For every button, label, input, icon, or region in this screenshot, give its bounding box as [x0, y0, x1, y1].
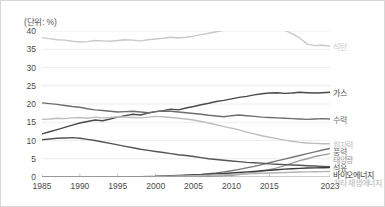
x-axis-tick-label: 2010	[211, 181, 251, 191]
y-axis-tick-label: 35	[10, 44, 36, 54]
y-axis-tick-label: 20	[10, 99, 36, 109]
x-axis-tick-label: 2005	[174, 181, 214, 191]
series-label-석탄: 석탄	[333, 40, 346, 51]
y-axis-tick-label: 25	[10, 81, 36, 91]
series-line-석탄	[42, 31, 330, 46]
x-axis-tick-label: 2000	[136, 181, 176, 191]
y-axis-tick-label: 10	[10, 136, 36, 146]
x-axis-tick-label: 1985	[22, 181, 62, 191]
x-axis-tick-label: 1990	[60, 181, 100, 191]
chart-frame: (단위: %) 0510152025303540 198519901995200…	[0, 0, 385, 207]
series-line-수력	[42, 103, 330, 119]
x-axis-tick-label: 2015	[249, 181, 289, 191]
series-label-수력: 수력	[333, 113, 346, 124]
y-axis-tick-label: 40	[10, 26, 36, 36]
series-line-석유	[42, 138, 330, 167]
series-label-가스: 가스	[333, 87, 346, 98]
y-axis-tick-label: 5	[10, 154, 36, 164]
x-axis-tick-label: 1995	[98, 181, 138, 191]
series-label-기타 재생에너지: 기타 재생에너지	[333, 176, 382, 187]
line-chart-plot	[42, 31, 330, 177]
y-axis-tick-label: 15	[10, 117, 36, 127]
y-axis-tick-label: 30	[10, 63, 36, 73]
